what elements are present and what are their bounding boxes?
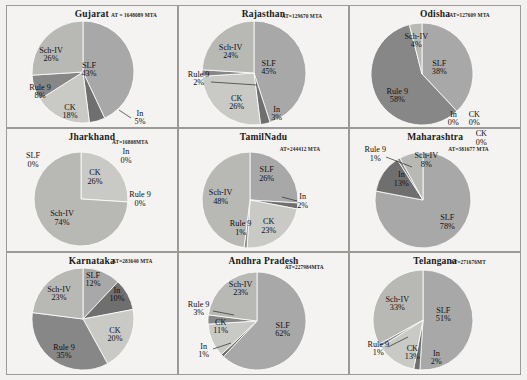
slice-label: SLF51% (436, 306, 451, 323)
pie-panel: RajasthanAT=129670 MTASLF45%In3%CK26%Rul… (178, 5, 350, 128)
slice-label: SLF12% (85, 271, 100, 288)
slice-label-value: 1% (368, 349, 390, 357)
slice-label-value: 8% (415, 160, 439, 168)
slice-label: In3% (271, 106, 282, 123)
slice-label-value: 18% (62, 112, 77, 120)
slice-label-value: 38% (432, 68, 447, 76)
slice-label: Rule 90% (129, 191, 151, 208)
slice-label: Rule 958% (387, 88, 409, 105)
pie-panel: MaharashtraAT=381677 MTASLF78%In13%CK0%R… (349, 128, 521, 251)
slice-label-value: 1% (230, 228, 252, 236)
slice-label-value: 48% (209, 197, 233, 205)
pie-chart-grid: GujaratAT = 1648089 MTASLF43%In5%CK18%Ru… (6, 5, 521, 375)
slice-label-value: 12% (85, 280, 100, 288)
slice-label: SLF45% (261, 60, 276, 77)
slice-label: CK13% (405, 344, 420, 361)
slice-label-value: 74% (50, 218, 74, 226)
slice-label: Sch-IV8% (415, 152, 439, 169)
slice-label: CK20% (107, 326, 122, 343)
slice-label-value: 3% (271, 114, 282, 122)
slice-label: In2% (431, 349, 442, 366)
slice-label-value: 51% (436, 315, 451, 323)
slice-label-value: 2% (431, 358, 442, 366)
slice-label-value: 4% (405, 41, 429, 49)
slice-label-value: 10% (109, 295, 124, 303)
slice-label: Rule 91% (365, 146, 387, 163)
slice-label: Sch-IV26% (39, 47, 63, 64)
slice-label: SLF38% (432, 60, 447, 77)
panel-annotation: AT=244412 MTA (280, 146, 320, 152)
panel-annotation: AT=16808MTA (112, 139, 148, 145)
slice-label: CK26% (229, 95, 244, 112)
pie-panel: GujaratAT = 1648089 MTASLF43%In5%CK18%Ru… (6, 5, 178, 128)
slice-label: Rule 935% (53, 343, 75, 360)
slice-label-value: 26% (87, 177, 102, 185)
pie-panel: TamilNaduAT=244412 MTASLF26%In2%CK23%Rul… (178, 128, 350, 251)
slice-label-value: 20% (107, 335, 122, 343)
slice-label: Sch-IV23% (47, 285, 71, 302)
slice-label: Sch-IV24% (219, 44, 243, 61)
pie-chart-figure: GujaratAT = 1648089 MTASLF43%In5%CK18%Ru… (0, 0, 527, 380)
pie-graphic (31, 267, 135, 371)
slice-label-value: 2% (188, 79, 210, 87)
panel-annotation: AT=129670 MTA (282, 13, 322, 19)
slice-label: In2% (297, 193, 308, 210)
slice-label-value: 13% (405, 353, 420, 361)
slice-label: Sch-IV33% (386, 295, 410, 312)
slice-label-value: 78% (440, 222, 455, 230)
slice-label-value: 24% (219, 52, 243, 60)
slice-label: Sch-IV23% (229, 280, 253, 297)
panel-title: Jharkhand (7, 132, 177, 142)
slice-label: Rule 91% (368, 340, 390, 357)
slice-label: Rule 98% (29, 84, 51, 101)
slice-label-value: 3% (188, 309, 210, 317)
pie-panel: Andhra PradeshAT=227984MTASLF62%In1%CK11… (178, 252, 350, 375)
slice-label-value: 11% (213, 327, 228, 335)
slice-label-value: 8% (29, 92, 51, 100)
slice-label: Rule 93% (188, 300, 210, 317)
panel-annotation: AT=381677 MTA (448, 146, 488, 152)
slice-label-value: 26% (39, 55, 63, 63)
slice-label-value: 62% (275, 330, 290, 338)
pie-panel: KarnatakaAT=283640 MTASLF12%In10%CK20%Ru… (6, 252, 178, 375)
slice-label-value: 1% (365, 154, 387, 162)
slice-label: Sch-IV74% (50, 210, 74, 227)
slice-label: CK26% (87, 169, 102, 186)
slice-label-value: 0% (121, 156, 132, 164)
panel-annotation: AT=227984MTA (285, 264, 324, 270)
panel-annotation: AT=283640 MTA (112, 258, 152, 264)
slice-label: In1% (198, 342, 209, 359)
slice-label-value: 26% (229, 103, 244, 111)
slice-label-value: 26% (259, 174, 274, 182)
slice-label-value: 58% (387, 96, 409, 104)
slice-label: In13% (394, 171, 409, 188)
panel-title: TamilNadu (179, 132, 349, 142)
slice-label: SLF26% (259, 166, 274, 183)
slice-label: Sch-IV48% (209, 189, 233, 206)
slice-label-value: 0% (26, 160, 40, 168)
pie-graphic (201, 20, 307, 126)
slice-label: CK0% (476, 130, 487, 147)
slice-label-value: 13% (394, 179, 409, 187)
slice-label-value: 2% (297, 201, 308, 209)
slice-label-value: 5% (135, 118, 146, 126)
panel-title: Rajasthan (179, 9, 349, 19)
slice-label: CK11% (213, 318, 228, 335)
slice-label: Rule 92% (188, 71, 210, 88)
slice-label-value: 35% (53, 352, 75, 360)
slice-label: In0% (448, 111, 459, 128)
slice-label: SLF0% (26, 152, 40, 169)
panel-annotation: AT = 1648089 MTA (111, 12, 157, 18)
panel-title: Telangana (350, 256, 520, 266)
slice-label-value: 45% (261, 68, 276, 76)
slice-label-value: 33% (386, 304, 410, 312)
slice-label-value: 23% (229, 289, 253, 297)
slice-label: SLF43% (81, 62, 96, 79)
slice-label: SLF78% (440, 214, 455, 231)
slice-label: CK0% (469, 111, 480, 128)
pie-graphic (33, 151, 129, 247)
pie-panel: JharkhandAT=16808MTASLF0%In0%CK26%Rule 9… (6, 128, 178, 251)
pie-panel: TelanganaAT=271676MTSLF51%In2%CK13%Rule … (349, 252, 521, 375)
slice-label: SLF62% (275, 321, 290, 338)
slice-label: Sch-IV4% (405, 33, 429, 50)
